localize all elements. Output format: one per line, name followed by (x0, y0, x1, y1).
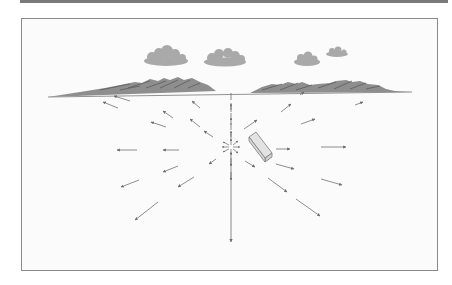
arrow (204, 131, 213, 137)
arrow (121, 180, 139, 187)
arrow (301, 119, 315, 124)
arrow (321, 179, 342, 185)
arrow (114, 96, 130, 101)
arrow (281, 104, 291, 112)
mountain-range-right (250, 80, 412, 93)
arrow (355, 102, 363, 105)
diagram-canvas (0, 0, 452, 285)
source-burst-icon (222, 139, 240, 155)
arrow (151, 122, 166, 127)
cloud-icon (204, 48, 246, 67)
cloud-icon (326, 47, 348, 58)
arrow (245, 161, 255, 167)
arrow (244, 120, 257, 129)
arrow (190, 119, 200, 127)
mountain-range-left (48, 77, 216, 97)
arrow (163, 166, 178, 172)
arrow (209, 159, 216, 164)
arrow (276, 164, 294, 169)
cloud-icon (294, 52, 320, 67)
arrow (135, 202, 158, 220)
arrow (178, 177, 194, 187)
block-obstacle (249, 132, 272, 162)
arrow (296, 199, 320, 216)
arrow (103, 102, 118, 108)
clouds (144, 45, 348, 67)
cloud-icon (144, 45, 188, 66)
arrow (163, 111, 173, 118)
arrow (268, 178, 287, 192)
radiating-arrows (103, 92, 363, 220)
arrow (192, 101, 200, 108)
